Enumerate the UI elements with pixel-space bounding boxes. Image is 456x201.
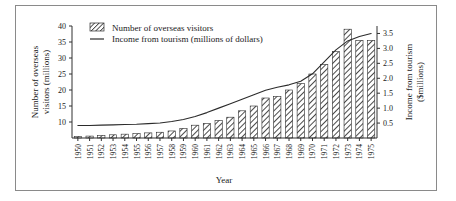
- x-tick-label: 1965: [250, 144, 259, 159]
- y-axis-left-title-line1: Number of overseas: [30, 45, 40, 118]
- bar: [356, 40, 363, 138]
- x-tick-label: 1975: [367, 144, 376, 159]
- x-tick-label: 1957: [156, 144, 165, 159]
- legend-swatch-bars: [90, 23, 104, 31]
- bar: [309, 74, 316, 138]
- y-tick-label-left: 35: [58, 38, 66, 47]
- bar: [262, 98, 269, 138]
- bar: [238, 111, 245, 138]
- x-tick-label: 1963: [226, 144, 235, 159]
- x-tick-label: 1962: [215, 144, 224, 159]
- x-tick-label: 1974: [355, 144, 364, 159]
- x-tick-label: 1966: [262, 144, 271, 159]
- bar: [203, 124, 210, 138]
- bar: [274, 96, 281, 138]
- y-tick-label-right: 0.5: [383, 119, 393, 128]
- y-tick-label-right: 2.0: [383, 74, 393, 83]
- x-tick-label: 1959: [179, 144, 188, 159]
- bar: [332, 52, 339, 138]
- y-axis-right-title-line1: Income from tourism: [404, 44, 414, 120]
- y-tick-label-right: 1.0: [383, 104, 393, 113]
- bar: [215, 120, 222, 138]
- y-axis-right-title-line2: ($millions): [415, 62, 425, 102]
- x-tick-label: 1954: [121, 144, 130, 159]
- x-tick-label: 1955: [133, 144, 142, 159]
- bar: [285, 90, 292, 138]
- x-tick-label: 1968: [285, 144, 294, 159]
- legend: Number of overseas visitors Income from …: [90, 23, 263, 45]
- x-axis-tick-labels: 1950195119521953195419551956195719581959…: [74, 144, 376, 159]
- x-tick-label: 1961: [203, 144, 212, 159]
- figure-frame: 10152025303540 0.51.01.52.02.53.03.5 195…: [15, 5, 437, 191]
- bar: [168, 131, 175, 138]
- y-axis-left-title: Number of overseas visitors (millions): [30, 45, 51, 118]
- bar: [344, 29, 351, 138]
- x-tick-label: 1970: [308, 144, 317, 159]
- x-tick-label: 1971: [320, 144, 329, 159]
- y-tick-label-right: 3.0: [383, 44, 393, 53]
- y-tick-label-right: 1.5: [383, 89, 393, 98]
- x-axis: [72, 138, 377, 141]
- bar: [297, 84, 304, 138]
- y-tick-label-left: 20: [58, 86, 66, 95]
- bar: [133, 134, 140, 138]
- x-tick-label: 1958: [168, 144, 177, 159]
- bar: [368, 40, 375, 138]
- y-axis-left-title-line2: visitors (millions): [41, 50, 51, 114]
- y-axis-left: 10152025303540: [58, 22, 72, 138]
- x-tick-label: 1956: [144, 144, 153, 159]
- x-tick-label: 1960: [191, 144, 200, 159]
- chart-svg: 10152025303540 0.51.01.52.02.53.03.5 195…: [16, 6, 438, 192]
- x-axis-title: Year: [216, 175, 233, 185]
- y-tick-label-right: 3.5: [383, 29, 393, 38]
- y-tick-label-left: 30: [58, 54, 66, 63]
- legend-label-bars: Number of overseas visitors: [112, 23, 214, 33]
- bar: [121, 134, 128, 138]
- bar: [227, 117, 234, 138]
- y-tick-label-right: 2.5: [383, 59, 393, 68]
- y-axis-right: 0.51.01.52.02.53.03.5: [377, 26, 393, 138]
- y-axis-right-title: Income from tourism ($millions): [404, 44, 425, 120]
- plot-bars: [74, 29, 375, 138]
- y-tick-label-left: 40: [58, 22, 66, 31]
- y-tick-label-left: 15: [58, 102, 66, 111]
- x-tick-label: 1964: [238, 144, 247, 159]
- bar: [156, 132, 163, 138]
- x-tick-label: 1972: [332, 144, 341, 159]
- y-tick-label-left: 25: [58, 70, 66, 79]
- y-tick-label-left: 10: [58, 118, 66, 127]
- x-tick-label: 1952: [97, 144, 106, 159]
- bar: [180, 128, 187, 138]
- bar: [250, 106, 257, 138]
- bar: [192, 125, 199, 138]
- bar: [145, 133, 152, 138]
- x-tick-label: 1973: [344, 144, 353, 159]
- chart-area: 10152025303540 0.51.01.52.02.53.03.5 195…: [16, 6, 438, 192]
- x-tick-label: 1953: [109, 144, 118, 159]
- bar: [321, 64, 328, 138]
- x-tick-label: 1951: [86, 144, 95, 159]
- x-tick-label: 1967: [273, 144, 282, 159]
- legend-label-line: Income from tourism (millions of dollars…: [112, 34, 263, 44]
- x-tick-label: 1950: [74, 144, 83, 159]
- x-tick-label: 1969: [297, 144, 306, 159]
